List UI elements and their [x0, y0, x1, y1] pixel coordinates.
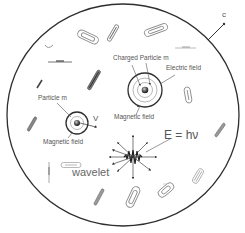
moving-particle-group: [57, 103, 96, 138]
charged-particle-ball: [142, 87, 149, 94]
boundary-pointer: [208, 23, 225, 40]
boundary-label: c: [222, 10, 226, 19]
particle-label: Particle m: [38, 94, 67, 101]
electric-field-label: Electric field: [166, 64, 201, 71]
energy-equation: E = hν: [164, 128, 198, 142]
universe-diagram: c: [0, 0, 245, 233]
moving-particle-ball: [74, 120, 80, 126]
moving-magnetic-field-label: Magnetic field: [43, 138, 83, 146]
charged-particle-label: Charged Particle m: [113, 54, 169, 62]
charged-magnetic-field-label: Magnetic field: [114, 113, 154, 121]
wavelet-label: wavelet: [71, 166, 109, 178]
velocity-label: V: [93, 114, 99, 123]
photon-burst: [110, 136, 170, 178]
